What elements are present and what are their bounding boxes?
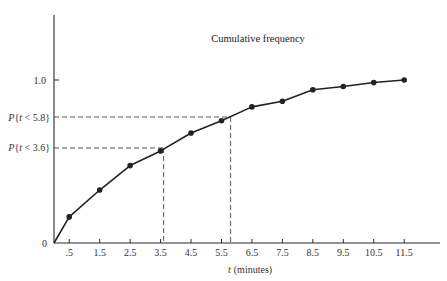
data-point-marker <box>310 87 316 93</box>
x-axis-unit: (minutes) <box>234 264 272 276</box>
x-tick-label: 8.5 <box>307 247 320 258</box>
chart-canvas: Cumulative frequency 0 t(minutes) .51.52… <box>0 0 447 281</box>
data-point-marker <box>340 84 346 90</box>
x-tick-label: 7.5 <box>276 247 289 258</box>
axes <box>54 15 440 243</box>
x-tick-label: 1.5 <box>93 247 106 258</box>
chart-title: Cumulative frequency <box>211 33 305 44</box>
origin-label: 0 <box>42 238 47 249</box>
data-point-marker <box>97 187 103 193</box>
x-tick-label: 11.5 <box>396 247 413 258</box>
data-point-marker <box>127 163 133 169</box>
data-point-marker <box>66 214 72 220</box>
data-point-marker <box>371 80 377 86</box>
x-tick-label: .5 <box>65 247 73 258</box>
x-tick-label: 3.5 <box>154 247 167 258</box>
data-point-marker <box>401 77 407 83</box>
annotation-label-part: < 5.8} <box>22 112 50 123</box>
x-tick-label: 9.5 <box>337 247 350 258</box>
x-axis-label: t(minutes) <box>228 264 272 276</box>
x-tick-label: 5.5 <box>215 247 228 258</box>
data-point-marker <box>280 98 286 104</box>
x-axis-var: t <box>228 264 231 275</box>
cumulative-frequency-line <box>54 80 404 243</box>
data-point-marker <box>249 104 255 110</box>
y-tick-label: 1.0 <box>34 75 47 86</box>
cumulative-frequency-chart: Cumulative frequency 0 t(minutes) .51.52… <box>0 0 447 281</box>
x-tick-label: 4.5 <box>185 247 198 258</box>
data-point-marker <box>188 130 194 136</box>
axis-labels: Cumulative frequency 0 t(minutes) .51.52… <box>7 33 412 276</box>
data-point-marker <box>219 118 225 124</box>
x-tick-label: 2.5 <box>124 247 137 258</box>
annotation-label-part: P <box>7 112 14 123</box>
dashed-guides <box>54 117 231 243</box>
x-tick-label: 10.5 <box>365 247 383 258</box>
annotation-label: P{t < 5.8} <box>7 112 50 123</box>
annotation-label: P{t < 3.6} <box>7 142 50 153</box>
data-point-marker <box>158 148 164 154</box>
annotation-label-part: P <box>7 142 14 153</box>
annotation-label-part: < 3.6} <box>22 142 50 153</box>
x-tick-label: 6.5 <box>246 247 259 258</box>
